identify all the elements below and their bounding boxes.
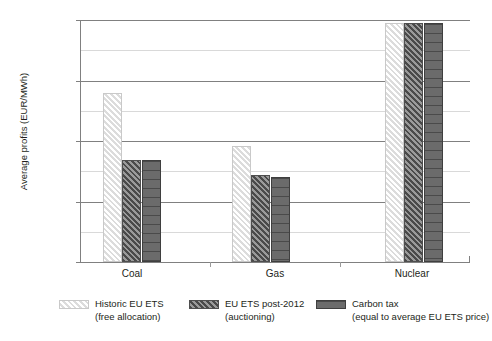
- legend-swatch-eu-ets-post-2012: [189, 300, 219, 309]
- x-axis-label-gas: Gas: [215, 268, 335, 279]
- legend-label-historic-eu-ets: Historic EU ETS (free allocation): [95, 297, 164, 323]
- legend-label-line1: EU ETS post-2012: [225, 298, 304, 309]
- x-axis-separator-1: [210, 262, 211, 267]
- y-axis-title: Average profits (EUR/MWh): [18, 12, 29, 252]
- legend-label-line2: (free allocation): [95, 310, 164, 323]
- legend-label-line2: (auctioning): [225, 310, 304, 323]
- legend-label-line1: Carbon tax: [352, 298, 398, 309]
- legend-swatch-carbon-tax: [316, 300, 346, 309]
- plot-area: [80, 20, 470, 262]
- bar-gas-carbon-tax: [271, 177, 290, 262]
- bar-nuclear-eu-ets-post-2012: [404, 23, 423, 262]
- x-axis-label-nuclear: Nuclear: [352, 268, 472, 279]
- x-axis-label-coal: Coal: [72, 268, 192, 279]
- bar-coal-historic-eu-ets: [103, 93, 122, 262]
- bar-coal-carbon-tax: [142, 160, 161, 262]
- legend-label-line2: (equal to average EU ETS price): [352, 310, 489, 323]
- bar-gas-historic-eu-ets: [232, 146, 251, 262]
- bar-coal-eu-ets-post-2012: [122, 160, 141, 262]
- x-axis-end-tick: [469, 256, 470, 263]
- bar-group-nuclear: [385, 20, 443, 262]
- legend-swatch-historic-eu-ets: [59, 300, 89, 309]
- chart-legend: Historic EU ETS (free allocation) EU ETS…: [0, 297, 492, 341]
- legend-label-eu-ets-post-2012: EU ETS post-2012 (auctioning): [225, 297, 304, 323]
- x-axis-line: [80, 262, 470, 263]
- bar-nuclear-historic-eu-ets: [385, 23, 404, 262]
- bar-group-gas: [232, 20, 290, 262]
- legend-label-line1: Historic EU ETS: [95, 298, 164, 309]
- y-axis-line: [80, 20, 81, 263]
- legend-label-carbon-tax: Carbon tax (equal to average EU ETS pric…: [352, 297, 489, 323]
- bar-gas-eu-ets-post-2012: [251, 175, 270, 262]
- bar-group-coal: [103, 20, 161, 262]
- x-axis-separator-2: [340, 262, 341, 267]
- bar-nuclear-carbon-tax: [424, 23, 443, 262]
